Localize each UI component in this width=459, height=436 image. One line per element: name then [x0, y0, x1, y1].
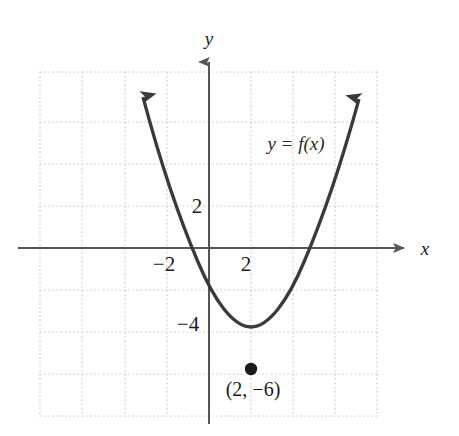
parabola-figure: y x −2 2 2 −4 y = f(x) (2, −6)	[0, 0, 459, 436]
curve-equation-label: y = f(x)	[265, 133, 324, 155]
graph-canvas: y x −2 2 2 −4 y = f(x) (2, −6)	[0, 0, 459, 436]
vertex-point-label: (2, −6)	[226, 378, 281, 401]
x-tick-label-2: 2	[241, 252, 252, 276]
x-axis-label: x	[420, 238, 430, 259]
y-tick-label-2: 2	[192, 194, 203, 218]
y-tick-label-neg4: −4	[177, 312, 200, 336]
vertex-point-marker	[245, 363, 257, 375]
y-axis-label: y	[203, 28, 214, 49]
x-tick-label-neg2: −2	[153, 252, 175, 276]
